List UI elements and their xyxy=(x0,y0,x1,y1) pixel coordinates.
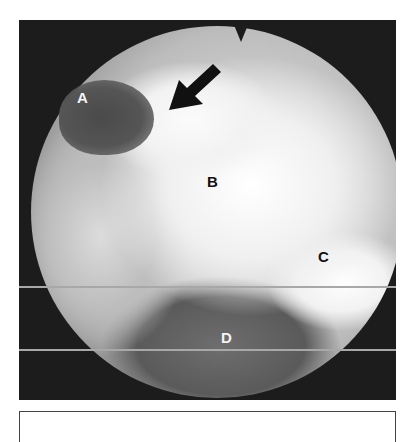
label-c: C xyxy=(318,249,329,264)
label-d: D xyxy=(221,330,232,345)
endoscopic-image-frame: A B C D xyxy=(19,20,396,400)
scan-artifact-line-upper xyxy=(19,286,396,288)
caption-box xyxy=(19,411,396,442)
scope-notch-marker xyxy=(232,20,250,42)
region-a-dark-area xyxy=(59,80,154,155)
label-a: A xyxy=(77,90,88,105)
label-b: B xyxy=(207,174,218,189)
arrow-down-left-icon xyxy=(169,62,229,112)
scan-artifact-line-lower xyxy=(19,349,396,351)
